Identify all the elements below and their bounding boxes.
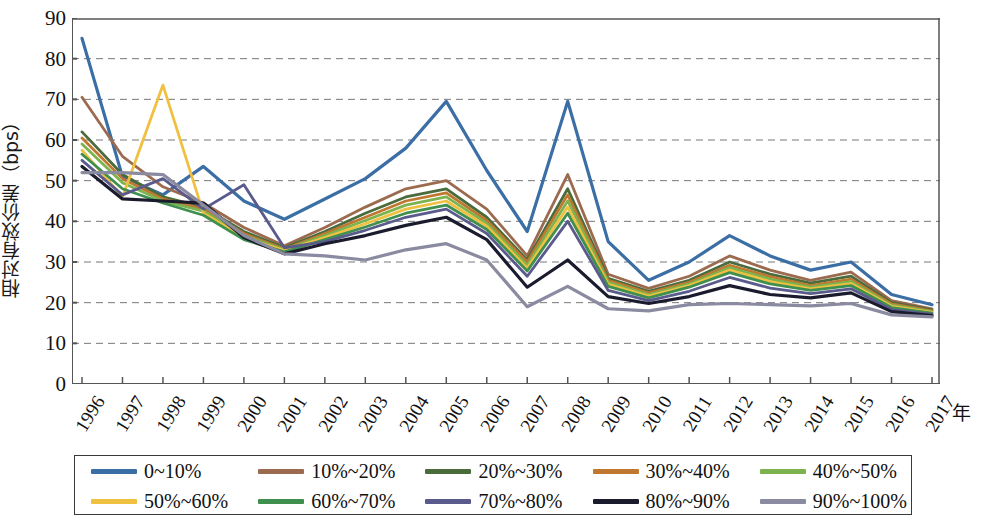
chart-legend: 0~10%10%~20%20%~30%30%~40%40%~50% 50%~60… — [74, 455, 912, 515]
y-tick-label: 30 — [30, 250, 66, 275]
legend-label: 10%~20% — [311, 460, 395, 483]
x-tick-label: 2007 — [516, 392, 555, 436]
legend-swatch-line-icon — [425, 469, 471, 474]
x-axis-title: 年 — [952, 398, 971, 425]
x-tick-label: 2006 — [476, 392, 515, 436]
legend-swatch-line-icon — [760, 499, 806, 504]
y-tick-label: 40 — [30, 209, 66, 234]
x-tick-label: 2013 — [759, 392, 798, 436]
y-tick-label: 0 — [30, 372, 66, 397]
legend-label: 90%~100% — [813, 490, 907, 513]
x-tick-label: 2016 — [880, 392, 919, 436]
legend-swatch-line-icon — [593, 469, 639, 474]
x-tick-label: 2000 — [233, 392, 272, 436]
y-axis-tick-labels: 9080706050403020100 — [22, 0, 66, 400]
legend-row-bottom: 50%~60%60%~70%70%~80%80%~90%90%~100% — [75, 486, 911, 516]
x-tick-label: 1999 — [192, 392, 231, 436]
legend-label: 20%~30% — [478, 460, 562, 483]
x-tick-label: 2001 — [273, 392, 312, 436]
legend-item[interactable]: 50%~60% — [75, 490, 242, 513]
y-tick-label: 20 — [30, 290, 66, 315]
legend-swatch-line-icon — [258, 499, 304, 504]
x-tick-label: 2014 — [799, 392, 838, 436]
legend-swatch-line-icon — [91, 469, 137, 474]
y-tick-label: 70 — [30, 87, 66, 112]
legend-swatch-line-icon — [258, 469, 304, 474]
x-tick-label: 2015 — [840, 392, 879, 436]
plot-area — [72, 18, 940, 384]
legend-row-top: 0~10%10%~20%20%~30%30%~40%40%~50% — [75, 456, 911, 486]
legend-item[interactable]: 70%~80% — [409, 490, 576, 513]
legend-swatch-line-icon — [760, 469, 806, 474]
legend-label: 0~10% — [144, 460, 201, 483]
legend-swatch-line-icon — [91, 499, 137, 504]
legend-item[interactable]: 0~10% — [75, 460, 242, 483]
legend-swatch-line-icon — [593, 499, 639, 504]
chart-figure: 相对有效价差（bps） 9080706050403020100 19961997… — [0, 0, 987, 524]
legend-label: 40%~50% — [813, 460, 897, 483]
legend-swatch-line-icon — [425, 499, 471, 504]
x-tick-label: 2004 — [395, 392, 434, 436]
y-tick-label: 10 — [30, 331, 66, 356]
legend-label: 60%~70% — [311, 490, 395, 513]
y-tick-label: 50 — [30, 168, 66, 193]
legend-item[interactable]: 30%~40% — [577, 460, 744, 483]
legend-item[interactable]: 60%~70% — [242, 490, 409, 513]
legend-item[interactable]: 90%~100% — [744, 490, 911, 513]
x-tick-label: 2012 — [718, 392, 757, 436]
legend-label: 80%~90% — [646, 490, 730, 513]
x-tick-label: 1997 — [111, 392, 150, 436]
x-tick-label: 2005 — [435, 392, 474, 436]
legend-item[interactable]: 40%~50% — [744, 460, 911, 483]
data-lines — [82, 38, 932, 317]
x-tick-label: 1998 — [152, 392, 191, 436]
legend-label: 70%~80% — [478, 490, 562, 513]
x-tick-label: 1996 — [71, 392, 110, 436]
legend-label: 50%~60% — [144, 490, 228, 513]
x-tick-label: 2009 — [597, 392, 636, 436]
legend-item[interactable]: 10%~20% — [242, 460, 409, 483]
x-tick-label: 2011 — [678, 392, 716, 435]
legend-item[interactable]: 20%~30% — [409, 460, 576, 483]
x-tick-label: 2002 — [314, 392, 353, 436]
x-tick-label: 2008 — [557, 392, 596, 436]
x-tick-label: 2003 — [354, 392, 393, 436]
y-tick-label: 90 — [30, 6, 66, 31]
legend-item[interactable]: 80%~90% — [577, 490, 744, 513]
y-tick-label: 60 — [30, 128, 66, 153]
legend-label: 30%~40% — [646, 460, 730, 483]
y-tick-label: 80 — [30, 46, 66, 71]
x-tick-label: 2010 — [638, 392, 677, 436]
